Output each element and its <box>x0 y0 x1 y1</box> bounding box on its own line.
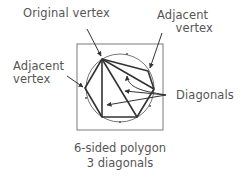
label-adjacent-left-line2: vertex <box>13 73 64 86</box>
arrow-adjacent-left <box>67 76 83 87</box>
label-diagonals: Diagonals <box>176 89 234 102</box>
label-original-vertex: Original vertex <box>23 7 110 20</box>
diagonals <box>102 59 154 117</box>
diagram-caption: 6-sided polygon 3 diagonals <box>60 141 180 171</box>
arrow-original-vertex <box>87 29 101 56</box>
label-adjacent-right-line2: vertex <box>157 22 213 35</box>
caption-line-2: 3 diagonals <box>60 156 180 171</box>
diagonal-2 <box>102 59 137 117</box>
diagonal-1 <box>102 59 154 89</box>
arrow-diagonal-3 <box>107 95 166 105</box>
label-adjacent-vertex-right: Adjacent vertex <box>157 9 213 35</box>
label-adjacent-vertex-left: Adjacent vertex <box>13 60 64 86</box>
arrow-diagonal-2 <box>125 91 166 95</box>
arrow-adjacent-right <box>150 33 162 68</box>
caption-line-1: 6-sided polygon <box>60 141 180 156</box>
